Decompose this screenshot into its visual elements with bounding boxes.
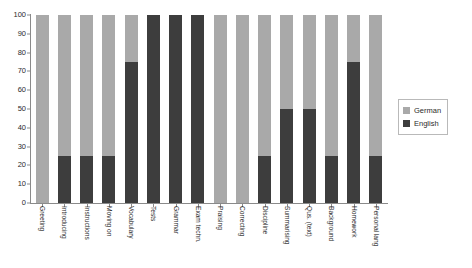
- stacked-bar[interactable]: [280, 15, 293, 203]
- bar-segment-english: [369, 156, 382, 203]
- stacked-bar[interactable]: [102, 15, 115, 203]
- bar-segment-english: [169, 15, 182, 203]
- legend-swatch-german: [403, 107, 410, 114]
- stacked-bar[interactable]: [58, 15, 71, 203]
- bar-segment-german: [280, 15, 293, 109]
- bar-segment-english: [102, 156, 115, 203]
- bar-segment-german: [303, 15, 316, 109]
- x-label-slot: Greeting: [31, 206, 53, 266]
- x-tick-label: Introducing: [61, 206, 68, 239]
- x-tick-label: Vocabulary: [128, 206, 135, 239]
- x-label-slot: Background: [320, 206, 342, 266]
- x-tick-label: Homework: [350, 206, 357, 238]
- bar-segment-english: [280, 109, 293, 203]
- plot-area: 1009080706050403020100: [31, 15, 387, 203]
- bar-segment-german: [125, 15, 138, 62]
- x-label-slot: Qus. (text): [298, 206, 320, 266]
- x-axis-labels: GreetingIntroducingInstructionsMoving on…: [31, 206, 387, 266]
- bar-segment-english: [325, 156, 338, 203]
- x-label-slot: Summarising: [276, 206, 298, 266]
- x-tick-label: Praising: [217, 206, 224, 230]
- bar-group: [31, 15, 387, 203]
- x-tick-label: Qus. (text): [306, 206, 313, 237]
- bar-slot: [254, 15, 276, 203]
- x-label-slot: Personal lang: [365, 206, 387, 266]
- x-label-slot: Exam techn.: [187, 206, 209, 266]
- stacked-bar[interactable]: [147, 15, 160, 203]
- x-label-slot: Instructions: [76, 206, 98, 266]
- bar-slot: [365, 15, 387, 203]
- stacked-bar[interactable]: [369, 15, 382, 203]
- stacked-bar[interactable]: [191, 15, 204, 203]
- bar-segment-german: [214, 15, 227, 203]
- x-tick-label: Grammar: [172, 206, 179, 234]
- bar-segment-german: [236, 15, 249, 203]
- stacked-bar[interactable]: [125, 15, 138, 203]
- x-label-slot: Discipline: [254, 206, 276, 266]
- bar-segment-english: [258, 156, 271, 203]
- chart-legend: German English: [398, 99, 448, 135]
- y-tick-label: 30: [18, 143, 26, 151]
- bar-segment-english: [303, 109, 316, 203]
- stacked-bar[interactable]: [80, 15, 93, 203]
- bar-segment-english: [80, 156, 93, 203]
- bar-slot: [209, 15, 231, 203]
- legend-item-english: English: [403, 117, 441, 130]
- x-tick-label: Moving on: [105, 206, 112, 236]
- bar-segment-german: [36, 15, 49, 203]
- bar-segment-german: [80, 15, 93, 156]
- y-tick-label: 20: [18, 161, 26, 169]
- y-tick-label: 0: [22, 199, 26, 207]
- x-tick-label: Instructions: [83, 206, 90, 240]
- y-tick-label: 80: [18, 49, 26, 57]
- bar-slot: [53, 15, 75, 203]
- x-axis-line: [30, 203, 388, 204]
- x-tick-label: Exam techn.: [194, 206, 201, 243]
- x-label-slot: Moving on: [98, 206, 120, 266]
- x-tick-label: Summarising: [283, 206, 290, 244]
- bar-segment-german: [58, 15, 71, 156]
- bar-segment-english: [58, 156, 71, 203]
- bar-slot: [142, 15, 164, 203]
- x-label-slot: Praising: [209, 206, 231, 266]
- x-label-slot: Vocabulary: [120, 206, 142, 266]
- stacked-bar[interactable]: [169, 15, 182, 203]
- x-tick-label: Personal lang: [372, 206, 379, 246]
- x-label-slot: Introducing: [53, 206, 75, 266]
- stacked-bar[interactable]: [325, 15, 338, 203]
- stacked-bar[interactable]: [258, 15, 271, 203]
- stacked-bar[interactable]: [36, 15, 49, 203]
- legend-label-german: German: [414, 107, 441, 115]
- y-tick-label: 50: [18, 105, 26, 113]
- stacked-bar[interactable]: [214, 15, 227, 203]
- y-tick-label: 70: [18, 67, 26, 75]
- bar-segment-german: [325, 15, 338, 156]
- x-tick-label: Correcting: [239, 206, 246, 236]
- bar-slot: [298, 15, 320, 203]
- bar-segment-german: [369, 15, 382, 156]
- bar-slot: [31, 15, 53, 203]
- legend-item-german: German: [403, 104, 441, 117]
- stacked-bar[interactable]: [303, 15, 316, 203]
- bar-slot: [276, 15, 298, 203]
- y-tick-label: 40: [18, 124, 26, 132]
- y-tick-label: 10: [18, 180, 26, 188]
- x-label-slot: Correcting: [231, 206, 253, 266]
- x-tick-label: Discipline: [261, 206, 268, 234]
- x-label-slot: Grammar: [165, 206, 187, 266]
- bar-slot: [343, 15, 365, 203]
- bar-segment-german: [258, 15, 271, 156]
- bar-segment-german: [102, 15, 115, 156]
- bar-slot: [120, 15, 142, 203]
- bar-segment-english: [147, 15, 160, 203]
- stacked-bar[interactable]: [236, 15, 249, 203]
- bar-slot: [231, 15, 253, 203]
- stacked-bar[interactable]: [347, 15, 360, 203]
- legend-swatch-english: [403, 120, 410, 127]
- bar-slot: [320, 15, 342, 203]
- x-label-slot: Homework: [343, 206, 365, 266]
- x-tick-label: Tests: [150, 206, 157, 221]
- bar-segment-english: [125, 62, 138, 203]
- bar-slot: [98, 15, 120, 203]
- bar-segment-german: [347, 15, 360, 62]
